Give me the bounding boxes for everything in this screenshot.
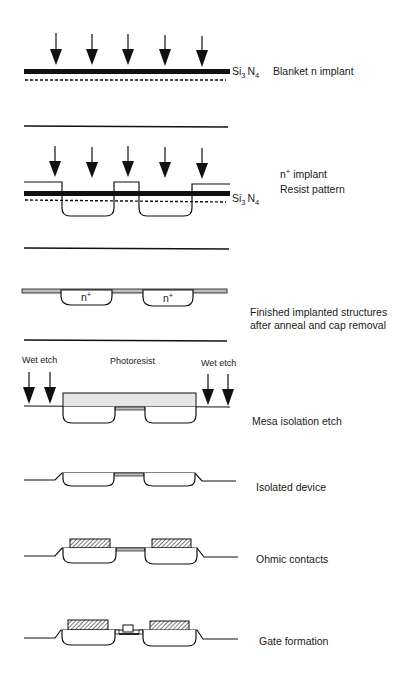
- arrow-down-icon: [159, 35, 171, 66]
- arrow-down-icon: [159, 147, 171, 178]
- arrow-down-icon: [222, 374, 234, 406]
- si3n4-cap-layer: [24, 69, 230, 74]
- step-ohmic-contacts: Ohmic contacts: [24, 539, 328, 565]
- nplus-region: [145, 407, 196, 423]
- nplus-region: [143, 630, 196, 646]
- arrow-down-icon: [50, 33, 62, 65]
- separator: [24, 126, 228, 127]
- ohmic-contact: [68, 620, 108, 630]
- arrow-down-icon: [23, 372, 35, 404]
- arrow-down-icon: [44, 372, 56, 404]
- step-label: Blanket n implant: [273, 65, 354, 77]
- nplus-well: [139, 196, 192, 216]
- step-nplus-implant: Si3N4 n+ implant Resist pattern: [24, 146, 345, 216]
- arrow-down-icon: [196, 148, 208, 179]
- si3n4-cap-layer: [24, 191, 230, 196]
- nplus-region: [62, 630, 115, 645]
- ohmic-contact: [70, 539, 110, 548]
- step-label: Gate formation: [259, 635, 329, 647]
- photoresist-label: Photoresist: [110, 356, 156, 366]
- arrow-down-icon: [122, 34, 134, 65]
- arrow-down-icon: [122, 146, 134, 177]
- surface-oxide: [22, 289, 227, 293]
- step-label-line2: Resist pattern: [280, 183, 345, 195]
- photoresist-layer: [63, 393, 196, 407]
- implant-arrows: [49, 146, 208, 179]
- implant-arrows: [50, 33, 208, 67]
- arrow-down-icon: [49, 146, 61, 177]
- nplus-region: [63, 407, 115, 423]
- step-label: Ohmic contacts: [256, 553, 328, 565]
- nplus-region: [144, 473, 195, 486]
- step-label-line2: after anneal and cap removal: [250, 319, 386, 331]
- implanted-layer: [25, 200, 226, 202]
- si3n4-label: Si3N4: [232, 192, 259, 207]
- arrow-down-icon: [86, 147, 98, 178]
- step-label: n+ implant: [280, 167, 327, 180]
- separator: [24, 340, 227, 341]
- surface-oxide: [116, 548, 145, 551]
- step-label: Finished implanted structures: [250, 306, 387, 318]
- step-finished-structures: n+ n+ Finished implanted structures afte…: [22, 289, 387, 331]
- step-gate-formation: Gate formation: [24, 620, 329, 647]
- arrow-down-icon: [202, 374, 214, 405]
- gate-electrode: [123, 625, 133, 632]
- step-isolated-device: Isolated device: [24, 473, 326, 493]
- step-mesa-etch: Wet etch Photoresist Wet etch Mesa isola…: [22, 355, 342, 427]
- surface-oxide: [115, 407, 145, 410]
- arrow-down-icon: [196, 36, 208, 67]
- ohmic-contact: [152, 539, 191, 548]
- separator: [24, 248, 229, 249]
- resist-pattern: [24, 182, 230, 192]
- nplus-region: [145, 548, 197, 564]
- wet-etch-label: Wet etch: [22, 355, 57, 365]
- wet-etch-label: Wet etch: [201, 358, 236, 368]
- nplus-well: [62, 196, 114, 216]
- nplus-region: [63, 548, 116, 563]
- step-label: Mesa isolation etch: [252, 415, 342, 427]
- step-label: Isolated device: [256, 481, 326, 493]
- nplus-region: [63, 473, 114, 486]
- arrow-down-icon: [86, 34, 98, 65]
- step-blanket-implant: Si3N4 Blanket n implant: [24, 33, 354, 80]
- si3n4-label: Si3N4: [232, 65, 259, 80]
- process-flow-diagram: Si3N4 Blanket n implant Si3N4 n+ implant…: [0, 0, 399, 674]
- surface-oxide: [114, 473, 144, 476]
